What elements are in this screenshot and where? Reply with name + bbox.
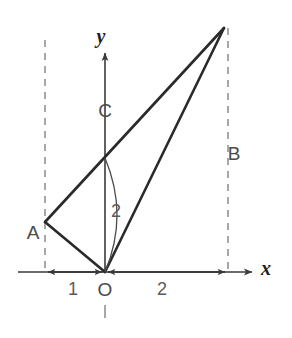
point-label-C: C: [98, 100, 112, 121]
origin-label-O: O: [98, 279, 113, 300]
dimension-label-2: 2: [157, 279, 167, 299]
point-label-B: B: [228, 143, 241, 164]
x-axis-label: x: [260, 257, 271, 279]
segment-A-to-O: [45, 222, 105, 272]
dimension-label-1: 1: [68, 279, 78, 299]
segment-A-to-top-vertex: [45, 28, 224, 222]
segment-O-to-top-vertex: [105, 28, 224, 272]
y-axis-label: y: [95, 25, 106, 48]
diagram-canvas: A B C O 1 2 2 x y: [0, 0, 292, 338]
arc-length-label-2: 2: [111, 201, 121, 221]
point-label-A: A: [27, 222, 40, 243]
geometry-figure: A B C O 1 2 2 x y: [0, 0, 292, 338]
